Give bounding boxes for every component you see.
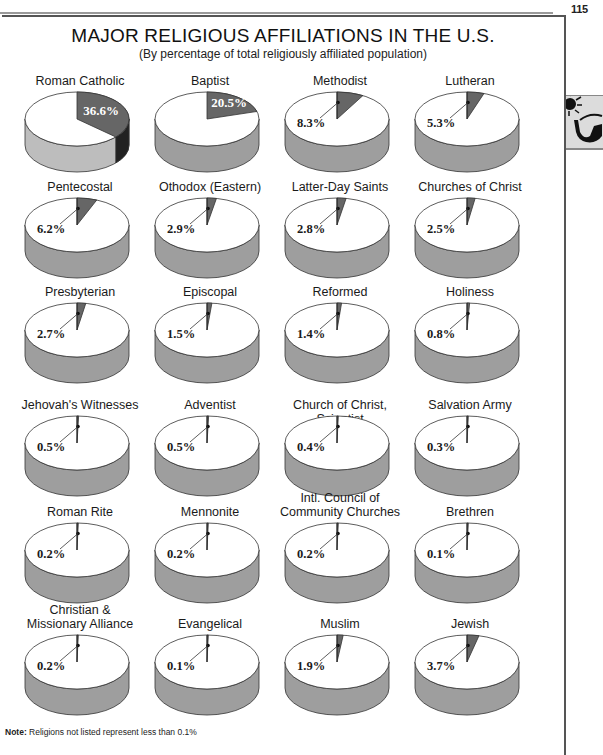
pie-category-label-line: Roman Rite <box>15 505 145 519</box>
pie-category-label: Intl. Council ofCommunity Churches <box>275 491 405 519</box>
footnote-prefix: Note: <box>5 727 27 737</box>
pie-category-label-line: Holiness <box>405 285 535 299</box>
pie-chart-cell: Intl. Council ofCommunity Churches0.2% <box>275 491 405 601</box>
pie-category-label-line: Baptist <box>145 74 275 88</box>
pie-category-label-line: Christian & <box>15 603 145 617</box>
pie-chart-cell: Episcopal1.5% <box>145 285 275 395</box>
pie-chart: 2.7% <box>23 301 133 385</box>
pie-chart-cell: Salvation Army0.3% <box>405 398 535 508</box>
pie-value-label: 0.2% <box>297 547 325 561</box>
pie-category-label-line: Evangelical <box>145 617 275 631</box>
pie-category-label: Roman Catholic <box>15 74 145 88</box>
pie-category-label-line: Othodox (Eastern) <box>145 180 275 194</box>
pie-category-label-line: Churches of Christ <box>405 180 535 194</box>
pie-category-label: Latter-Day Saints <box>275 180 405 194</box>
pie-value-label: 0.1% <box>167 659 195 673</box>
pie-chart-cell: Baptist20.5% <box>145 74 275 184</box>
pie-chart: 0.3% <box>413 414 523 498</box>
pie-chart: 0.4% <box>283 414 393 498</box>
pie-chart: 1.5% <box>153 301 263 385</box>
pie-category-label: Episcopal <box>145 285 275 299</box>
pie-category-label-line: Brethren <box>405 505 535 519</box>
pie-category-label: Adventist <box>145 398 275 412</box>
pie-category-label-line: Adventist <box>145 398 275 412</box>
pie-chart-cell: Pentecostal6.2% <box>15 180 145 290</box>
chart-subtitle: (By percentage of total religiously affi… <box>0 47 566 61</box>
pie-category-label: Salvation Army <box>405 398 535 412</box>
pie-chart: 0.5% <box>153 414 263 498</box>
pie-category-label: Jewish <box>405 617 535 631</box>
pie-chart: 20.5% <box>153 90 263 174</box>
pie-chart: 0.2% <box>283 521 393 605</box>
pie-category-label-line: Jewish <box>405 617 535 631</box>
pie-chart-cell: Reformed1.4% <box>275 285 405 395</box>
pie-chart: 0.2% <box>23 633 133 717</box>
pie-category-label-line: Intl. Council of <box>275 491 405 505</box>
pie-chart: 5.3% <box>413 90 523 174</box>
pie-value-label: 20.5% <box>211 95 247 110</box>
pie-category-label-line: Roman Catholic <box>15 74 145 88</box>
pie-value-label: 0.5% <box>37 440 65 454</box>
pie-chart: 2.9% <box>153 196 263 280</box>
pie-value-label: 0.8% <box>427 327 455 341</box>
pie-chart-cell: Jehovah's Witnesses0.5% <box>15 398 145 508</box>
pie-chart: 2.8% <box>283 196 393 280</box>
pie-chart: 6.2% <box>23 196 133 280</box>
pie-chart-cell: Jewish3.7% <box>405 617 535 727</box>
pie-value-label: 0.3% <box>427 440 455 454</box>
pie-value-label: 0.4% <box>297 440 325 454</box>
pie-chart: 0.2% <box>153 521 263 605</box>
pie-value-label: 8.3% <box>297 116 325 130</box>
pie-value-label: 2.9% <box>167 222 195 236</box>
footnote-text: Religions not listed represent less than… <box>27 727 197 737</box>
pie-chart-cell: Adventist0.5% <box>145 398 275 508</box>
pie-value-label: 1.5% <box>167 327 195 341</box>
pie-value-label: 2.7% <box>37 327 65 341</box>
pie-chart: 0.8% <box>413 301 523 385</box>
pie-category-label-line: Pentecostal <box>15 180 145 194</box>
pie-value-label: 2.5% <box>427 222 455 236</box>
pie-category-label: Pentecostal <box>15 180 145 194</box>
pie-chart: 1.9% <box>283 633 393 717</box>
pie-category-label: Holiness <box>405 285 535 299</box>
pie-category-label: Jehovah's Witnesses <box>15 398 145 412</box>
pie-value-label: 1.9% <box>297 659 325 673</box>
pie-category-label-line: Episcopal <box>145 285 275 299</box>
pie-category-label: Christian &Missionary Alliance <box>15 603 145 631</box>
pie-chart-cell: Churches of Christ2.5% <box>405 180 535 290</box>
pie-value-label: 3.7% <box>427 659 455 673</box>
pie-category-label: Presbyterian <box>15 285 145 299</box>
pie-chart-cell: Brethren0.1% <box>405 505 535 615</box>
pie-chart-cell: Mennonite0.2% <box>145 505 275 615</box>
pie-value-label: 5.3% <box>427 116 455 130</box>
pie-chart-cell: Muslim1.9% <box>275 617 405 727</box>
pie-chart: 8.3% <box>283 90 393 174</box>
pie-category-label-line: Reformed <box>275 285 405 299</box>
pie-chart: 2.5% <box>413 196 523 280</box>
pie-value-label: 1.4% <box>297 327 325 341</box>
pie-chart-cell: Evangelical0.1% <box>145 617 275 727</box>
pie-chart-cell: Holiness0.8% <box>405 285 535 395</box>
pie-value-label: 6.2% <box>37 222 65 236</box>
pie-category-label: Mennonite <box>145 505 275 519</box>
pie-category-label-line: Salvation Army <box>405 398 535 412</box>
pie-chart: 0.1% <box>413 521 523 605</box>
pie-category-label: Reformed <box>275 285 405 299</box>
pie-chart: 0.2% <box>23 521 133 605</box>
pie-value-label: 2.8% <box>297 222 325 236</box>
footnote: Note: Religions not listed represent les… <box>5 727 197 737</box>
pie-category-label: Lutheran <box>405 74 535 88</box>
pie-value-label: 0.5% <box>167 440 195 454</box>
pie-category-label-line: Lutheran <box>405 74 535 88</box>
pie-chart-cell: Methodist8.3% <box>275 74 405 184</box>
page-number: 115 <box>571 3 588 15</box>
pie-chart-cell: Lutheran5.3% <box>405 74 535 184</box>
pie-chart-cell: Latter-Day Saints2.8% <box>275 180 405 290</box>
pie-chart-cell: Roman Rite0.2% <box>15 505 145 615</box>
pie-category-label: Methodist <box>275 74 405 88</box>
chart-title: MAJOR RELIGIOUS AFFILIATIONS IN THE U.S. <box>0 25 566 47</box>
pie-category-label-line: Latter-Day Saints <box>275 180 405 194</box>
pie-chart: 0.5% <box>23 414 133 498</box>
pie-value-label: 36.6% <box>83 103 119 118</box>
pie-category-label-line: Methodist <box>275 74 405 88</box>
